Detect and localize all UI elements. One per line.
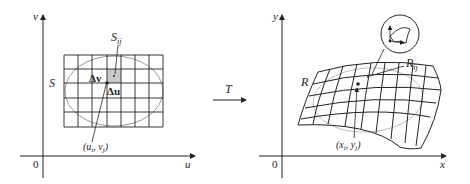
origin-label: 0 — [272, 158, 278, 170]
xy-curved-grid — [298, 62, 441, 149]
t-label: T — [225, 82, 233, 96]
v-axis-label: v — [33, 10, 38, 22]
region-s-label: S — [49, 76, 55, 90]
rij-label: Rij — [405, 56, 419, 72]
point-pointer — [92, 85, 106, 142]
xy-plane: y x 0 — [259, 10, 446, 178]
delta-v-label: Δv — [89, 72, 102, 84]
uv-point-label: (ui, vj) — [83, 141, 109, 154]
origin-label: 0 — [33, 158, 39, 170]
x-axis-label: x — [439, 158, 445, 170]
u-axis-label: u — [185, 158, 191, 170]
transformation-t: T — [213, 82, 246, 100]
sij-label: Sij — [111, 30, 122, 46]
mapped-point — [356, 82, 360, 86]
uv-plane: v u 0 S Sij Δv Δu — [20, 10, 195, 178]
y-axis-label: y — [272, 10, 278, 22]
change-of-variables-diagram: v u 0 S Sij Δv Δu — [0, 0, 470, 184]
delta-u-label: Δu — [107, 85, 120, 97]
region-r-label: R — [300, 75, 309, 89]
xy-point-label: (xi, yj) — [336, 139, 361, 152]
